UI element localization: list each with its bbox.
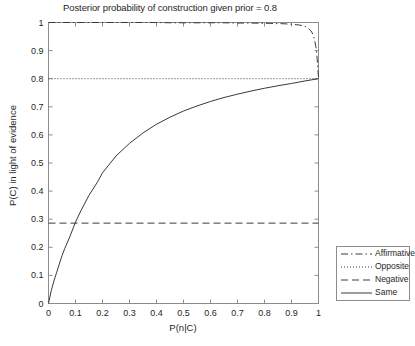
series-line-affirmative	[49, 23, 319, 79]
x-tick-label: 0.9	[277, 308, 307, 318]
legend-label-opposite: Opposite	[375, 261, 409, 271]
y-tick-label: 0.7	[14, 102, 44, 112]
y-tick-label: 0.6	[14, 130, 44, 140]
x-tick-label: 0	[34, 308, 64, 318]
y-tick-label: 0.5	[14, 158, 44, 168]
x-tick-label: 1	[304, 308, 334, 318]
x-tick-label: 0.1	[61, 308, 91, 318]
tick-marks	[49, 23, 319, 304]
x-tick-label: 0.7	[223, 308, 253, 318]
chart-figure: Posterior probability of construction gi…	[0, 0, 415, 346]
legend-label-same: Same	[375, 287, 397, 297]
x-tick-label: 0.8	[250, 308, 280, 318]
x-tick-label: 0.3	[115, 308, 145, 318]
y-tick-label: 0.4	[14, 186, 44, 196]
y-tick-label: 0.9	[14, 46, 44, 56]
axes-frame	[49, 23, 319, 304]
y-tick-label: 1	[14, 18, 44, 28]
x-tick-label: 0.5	[169, 308, 199, 318]
y-tick-label: 0.8	[14, 74, 44, 84]
x-tick-label: 0.2	[88, 308, 118, 318]
x-tick-label: 0.4	[142, 308, 172, 318]
legend-label-affirmative: Affirmative	[375, 248, 415, 258]
y-tick-label: 0.1	[14, 270, 44, 280]
data-series	[49, 23, 319, 304]
y-tick-label: 0.2	[14, 242, 44, 252]
chart-legend: AffirmativeOppositeNegativeSame	[336, 246, 410, 301]
x-tick-label: 0.6	[196, 308, 226, 318]
legend-label-negative: Negative	[375, 274, 409, 284]
y-tick-label: 0.3	[14, 214, 44, 224]
series-line-same	[49, 79, 319, 304]
